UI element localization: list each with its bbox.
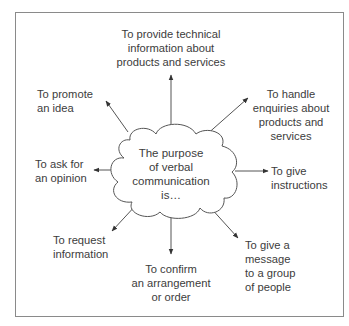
branch-label-top: To provide technical information about p… xyxy=(108,27,234,69)
branch-label-right: To give instructions xyxy=(271,164,328,192)
branch-label-top-right: To handle enquiries about products and s… xyxy=(246,87,336,143)
branch-label-bottom: To confirm an arrangement or order xyxy=(122,262,220,304)
branch-label-bottom-left: To request information xyxy=(53,233,108,261)
center-concept: The purpose of verbal communication is… xyxy=(118,146,224,202)
arrow-up-left xyxy=(106,101,128,132)
branch-label-top-left: To promote an idea xyxy=(37,87,93,115)
branch-label-bottom-right: To give a message to a group of people xyxy=(245,238,295,294)
branch-label-left: To ask for an opinion xyxy=(35,157,87,185)
